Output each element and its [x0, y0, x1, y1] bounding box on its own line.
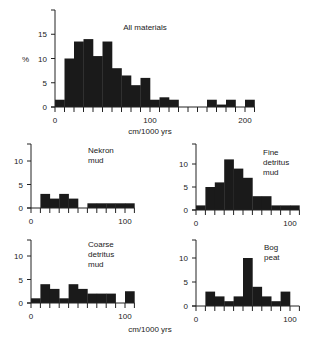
- histogram-bar: [271, 301, 281, 306]
- panel-title: mud: [88, 156, 104, 165]
- y-tick-label: 0: [19, 299, 24, 308]
- panel-title: peat: [264, 253, 280, 262]
- histogram-panel-all: 0510150100200All materials%cm/1000 yrs: [22, 10, 255, 136]
- x-tick-label: 0: [194, 219, 199, 228]
- histogram-bar: [215, 296, 225, 306]
- histogram-panel-nekron: 05100100Nekronmud: [14, 144, 135, 226]
- y-tick-label: 0: [184, 206, 189, 215]
- histogram-bar: [243, 178, 253, 210]
- y-tick-label: 5: [184, 278, 189, 287]
- histogram-bar: [252, 196, 262, 210]
- histogram-bar: [205, 292, 215, 306]
- y-tick-label: 15: [38, 30, 47, 39]
- histogram-bar: [160, 97, 170, 107]
- histogram-bar: [55, 100, 65, 107]
- histogram-panel-bog: 05100100Bogpeat: [179, 240, 299, 324]
- histogram-bar: [141, 78, 151, 107]
- histogram-bar: [224, 301, 234, 306]
- histogram-bar: [59, 194, 69, 208]
- histogram-bar: [112, 68, 122, 107]
- panel-title: Nekron: [88, 146, 114, 155]
- histogram-bar: [40, 284, 50, 303]
- histogram-bar: [74, 42, 84, 107]
- y-tick-label: 10: [14, 157, 23, 166]
- histogram-bar: [196, 205, 206, 210]
- x-tick-label: 200: [238, 116, 252, 125]
- y-tick-label: 10: [14, 252, 23, 261]
- x-tick-label: 0: [29, 312, 34, 321]
- x-tick-label: 0: [53, 116, 58, 125]
- y-tick-label: 5: [184, 183, 189, 192]
- x-tick-label: 100: [283, 219, 297, 228]
- histogram-bar: [243, 258, 253, 306]
- x-tick-label: 0: [194, 315, 199, 324]
- histogram-bar: [131, 85, 141, 107]
- x-tick-label: 100: [143, 116, 157, 125]
- histogram-bar: [97, 294, 107, 303]
- histogram-bar: [106, 294, 116, 303]
- panel-title: All materials: [123, 23, 167, 32]
- histogram-bar: [31, 298, 41, 303]
- histogram-bar: [103, 42, 113, 107]
- histogram-bar: [106, 203, 116, 208]
- histogram-bar: [252, 287, 262, 306]
- histogram-bar: [116, 203, 126, 208]
- y-axis-label: %: [22, 55, 29, 64]
- x-axis-label: cm/1000 yrs: [128, 127, 172, 136]
- panel-title: Coarse: [88, 240, 114, 249]
- histogram-bar: [87, 203, 97, 208]
- histogram-bar: [65, 59, 75, 108]
- histogram-figure: 0510150100200All materials%cm/1000 yrs05…: [0, 0, 313, 345]
- histogram-bar: [84, 39, 94, 107]
- y-tick-label: 5: [19, 276, 24, 285]
- histogram-bar: [97, 203, 107, 208]
- histogram-bar: [50, 199, 60, 208]
- histogram-bar: [205, 187, 215, 210]
- panel-title: Fine: [263, 148, 279, 157]
- x-tick-label: 100: [118, 217, 132, 226]
- histogram-bar: [78, 289, 88, 303]
- histogram-bar: [40, 194, 50, 208]
- bottom-x-axis-label: cm/1000 yrs: [128, 325, 172, 334]
- histogram-bar: [93, 56, 103, 107]
- histogram-bar: [87, 294, 97, 303]
- histogram-bar: [125, 291, 135, 303]
- y-tick-label: 10: [179, 160, 188, 169]
- histogram-bar: [215, 182, 225, 210]
- histogram-bar: [234, 169, 244, 210]
- histogram-bar: [281, 205, 291, 210]
- histogram-panel-fine: 05100100Finedetritusmud: [179, 144, 300, 228]
- y-tick-label: 0: [19, 204, 24, 213]
- y-tick-label: 0: [43, 103, 48, 112]
- histogram-bar: [69, 199, 79, 208]
- y-tick-label: 5: [19, 181, 24, 190]
- histogram-bar: [245, 100, 255, 107]
- histogram-bar: [224, 159, 234, 210]
- histogram-bar: [281, 292, 291, 306]
- y-tick-label: 0: [184, 302, 189, 311]
- x-tick-label: 100: [118, 312, 132, 321]
- panel-title: mud: [263, 168, 279, 177]
- y-tick-label: 5: [43, 79, 48, 88]
- y-tick-label: 10: [179, 254, 188, 263]
- y-tick-label: 10: [38, 55, 47, 64]
- histogram-bar: [150, 100, 160, 107]
- histogram-bar: [262, 296, 272, 306]
- x-tick-label: 100: [283, 315, 297, 324]
- panel-title: detritus: [88, 250, 114, 259]
- histogram-panel-coarse: 05100100Coarsedetritusmud: [14, 240, 135, 321]
- histogram-bar: [226, 100, 236, 107]
- histogram-bar: [207, 100, 217, 107]
- histogram-bar: [69, 284, 79, 303]
- histogram-bar: [271, 205, 281, 210]
- panel-title: mud: [88, 260, 104, 269]
- x-tick-label: 0: [29, 217, 34, 226]
- panel-title: Bog: [264, 243, 278, 252]
- histogram-bar: [262, 196, 272, 210]
- histogram-bar: [125, 203, 135, 208]
- histogram-bar: [234, 296, 244, 306]
- histogram-bar: [169, 100, 179, 107]
- histogram-bar: [50, 289, 60, 303]
- histogram-bar: [122, 75, 132, 107]
- histogram-bar: [59, 298, 69, 303]
